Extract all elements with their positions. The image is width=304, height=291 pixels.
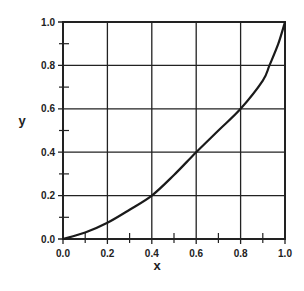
x-tick-label: 0.6 (189, 248, 203, 259)
y-tick-label: 0.2 (41, 190, 55, 201)
x-tick-label: 0.0 (56, 248, 70, 259)
grid-lines (58, 22, 285, 244)
x-tick-label: 0.2 (100, 248, 114, 259)
y-tick-label: 0.8 (41, 60, 55, 71)
y-tick-label: 1.0 (41, 17, 55, 28)
x-tick-label: 1.0 (278, 248, 292, 259)
line-chart: 0.00.20.40.60.81.0 0.00.20.40.60.81.0 x … (0, 0, 304, 291)
minor-ticks (59, 44, 263, 243)
data-curve (63, 22, 285, 239)
x-tick-labels: 0.00.20.40.60.81.0 (56, 248, 292, 259)
y-tick-label: 0.0 (41, 234, 55, 245)
plot-frame (63, 22, 285, 239)
x-axis-label: x (153, 258, 161, 273)
x-tick-label: 0.8 (234, 248, 248, 259)
y-tick-labels: 0.00.20.40.60.81.0 (41, 17, 55, 245)
y-tick-label: 0.4 (41, 147, 55, 158)
y-axis-label: y (18, 113, 26, 128)
y-tick-label: 0.6 (41, 103, 55, 114)
